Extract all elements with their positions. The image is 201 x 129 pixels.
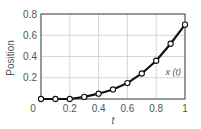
position-chart: 0.20.40.60.8 00.20.40.60.81 Position t x… (0, 0, 201, 129)
svg-text:0.4: 0.4 (92, 103, 106, 114)
svg-text:0.6: 0.6 (23, 30, 37, 41)
svg-text:0: 0 (30, 103, 36, 114)
svg-text:0.2: 0.2 (63, 103, 77, 114)
svg-text:0.4: 0.4 (23, 51, 37, 62)
series-annotation: x (t) (165, 67, 182, 77)
grid-lines (41, 14, 185, 99)
x-axis-label: t (112, 115, 116, 126)
svg-text:0.8: 0.8 (149, 103, 163, 114)
svg-text:0.8: 0.8 (23, 9, 37, 20)
svg-text:0.6: 0.6 (120, 103, 134, 114)
x-tick-labels: 00.20.40.60.81 (30, 103, 188, 114)
svg-text:0.2: 0.2 (23, 72, 37, 83)
svg-text:1: 1 (182, 103, 188, 114)
data-markers (38, 22, 187, 102)
y-axis-label: Position (5, 40, 16, 76)
y-tick-labels: 0.20.40.60.8 (23, 9, 37, 84)
